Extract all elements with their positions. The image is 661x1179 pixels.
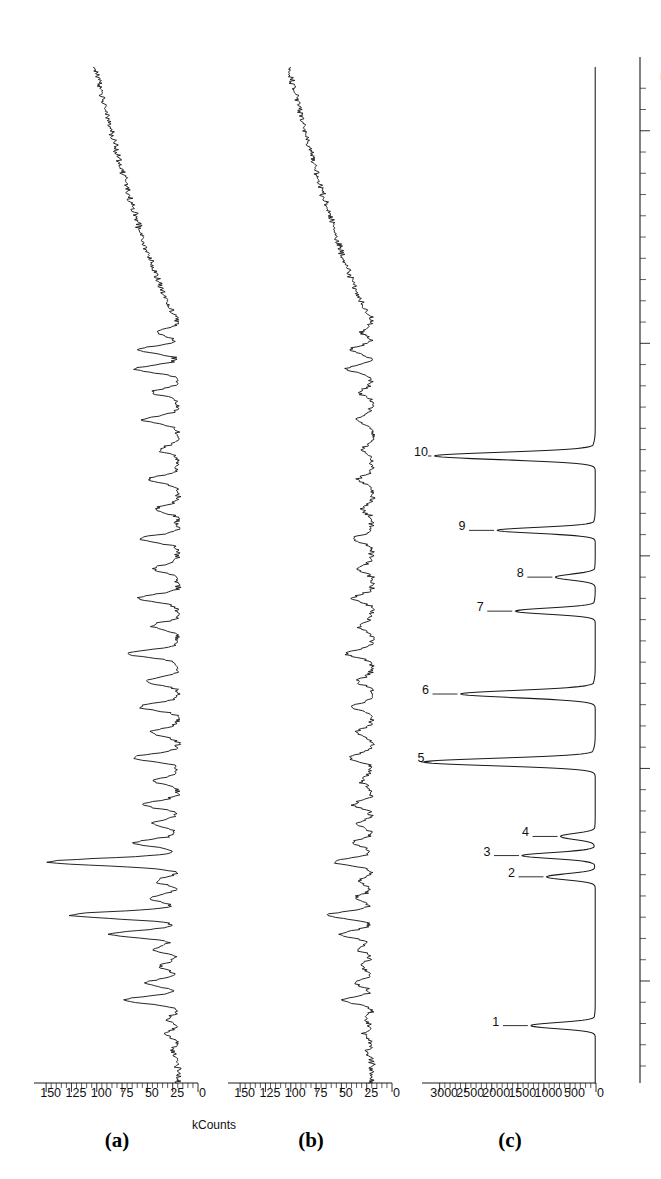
panel-a: 0255075100125150(a) xyxy=(34,67,206,1152)
panel-label-b: (b) xyxy=(298,1128,324,1152)
trace-c xyxy=(424,67,595,1083)
y-tick-label-b: 100 xyxy=(285,1086,306,1100)
peak-label-6: 6 xyxy=(422,683,429,697)
y-tick-label-b: 50 xyxy=(339,1086,353,1100)
y-tick-label-a: 125 xyxy=(66,1086,87,1100)
y-axis-title: kCounts xyxy=(192,1118,236,1132)
y-tick-label-b: 75 xyxy=(314,1086,328,1100)
chromatogram-svg: 0255075100125150(a)0255075100125150(b)05… xyxy=(0,0,661,1179)
y-tick-label-a: 0 xyxy=(199,1086,206,1100)
peak-label-10: 10 xyxy=(414,445,428,459)
peak-label-3: 3 xyxy=(484,845,491,859)
y-tick-label-b: 125 xyxy=(260,1086,281,1100)
trace-a xyxy=(47,67,181,1083)
y-tick-label-a: 150 xyxy=(40,1086,61,1100)
y-tick-label-c: 3000 xyxy=(430,1086,458,1100)
peak-label-5: 5 xyxy=(418,751,425,765)
y-tick-label-c: 1500 xyxy=(508,1086,536,1100)
peak-label-1: 1 xyxy=(492,1015,499,1029)
panel-b: 0255075100125150(b) xyxy=(228,67,400,1152)
y-tick-label-a: 100 xyxy=(91,1086,112,1100)
y-tick-label-b: 150 xyxy=(234,1086,255,1100)
panel-label-c: (c) xyxy=(498,1128,521,1152)
y-tick-label-c: 2000 xyxy=(482,1086,510,1100)
panel-label-a: (a) xyxy=(105,1128,130,1152)
y-tick-label-c: 2500 xyxy=(456,1086,484,1100)
y-tick-label-b: 25 xyxy=(364,1086,378,1100)
peak-label-4: 4 xyxy=(522,825,529,839)
rotated-plot-container: 0255075100125150(a)0255075100125150(b)05… xyxy=(0,0,661,1179)
y-tick-label-c: 0 xyxy=(597,1086,604,1100)
trace-b xyxy=(288,67,375,1083)
peak-label-2: 2 xyxy=(508,866,515,880)
y-tick-label-a: 25 xyxy=(170,1086,184,1100)
panel-c: 050010001500200025003000(c)12345678910 xyxy=(414,67,604,1152)
peak-label-7: 7 xyxy=(477,600,484,614)
peak-label-9: 9 xyxy=(458,519,465,533)
y-tick-label-c: 1000 xyxy=(534,1086,562,1100)
y-tick-label-a: 75 xyxy=(120,1086,134,1100)
y-tick-label-a: 50 xyxy=(145,1086,159,1100)
y-tick-label-c: 500 xyxy=(564,1086,585,1100)
y-tick-label-b: 0 xyxy=(393,1086,400,1100)
peak-label-8: 8 xyxy=(517,566,524,580)
x-axis: 1015202530min xyxy=(640,57,661,1083)
chromatogram-figure: 0255075100125150(a)0255075100125150(b)05… xyxy=(0,0,661,1179)
